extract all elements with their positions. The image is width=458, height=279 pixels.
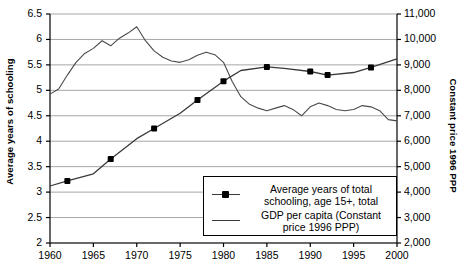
legend-label-gdp: GDP per capita (Constant price 1996 PPP) [248, 209, 398, 234]
y-axis-right-tick-label: 7,000 [404, 109, 452, 121]
y-axis-left-tick-label: 6 [2, 32, 42, 44]
y-axis-left-tick-label: 3 [2, 185, 42, 197]
legend-label-schooling-line1: Average years of total [248, 183, 394, 196]
data-point-marker [368, 64, 374, 70]
y-axis-left-tick-label: 2 [2, 236, 42, 248]
data-point-marker [194, 97, 200, 103]
chart-figure: Average years of schooling Constant pric… [0, 0, 458, 279]
data-point-marker [64, 178, 70, 184]
x-axis-tick-label: 1960 [28, 249, 72, 261]
data-point-marker [325, 72, 331, 78]
y-axis-left-tick-label: 3.5 [2, 160, 42, 172]
y-axis-left-tick-label: 5 [2, 83, 42, 95]
data-point-marker [307, 69, 313, 75]
x-axis-tick-label: 1975 [158, 249, 202, 261]
legend-label-schooling-line2: schooling, age 15+, total [248, 195, 394, 208]
x-axis-tick-label: 1985 [245, 249, 289, 261]
y-axis-left-tick-label: 4 [2, 134, 42, 146]
x-axis-tick-label: 1965 [71, 249, 115, 261]
y-axis-right-tick-label: 8,000 [404, 83, 452, 95]
y-axis-left-tick-label: 4.5 [2, 109, 42, 121]
legend-label-gdp-line1: GDP per capita (Constant [248, 209, 394, 222]
y-axis-left-tick-label: 2.5 [2, 211, 42, 223]
legend-label-schooling: Average years of total schooling, age 15… [248, 183, 398, 208]
data-point-marker [108, 156, 114, 162]
plot-canvas [0, 0, 458, 279]
x-axis-tick-label: 2000 [375, 249, 419, 261]
x-axis-tick-label: 1990 [288, 249, 332, 261]
y-axis-left-tick-label: 5.5 [2, 58, 42, 70]
x-axis-tick-label: 1980 [202, 249, 246, 261]
legend-key-line-with-marker [204, 187, 248, 203]
x-axis-tick-label: 1995 [332, 249, 376, 261]
y-axis-left-tick-label: 6.5 [2, 7, 42, 19]
data-point-marker [264, 64, 270, 70]
x-axis-tick-label: 1970 [115, 249, 159, 261]
data-point-marker [221, 78, 227, 84]
y-axis-right-tick-label: 9,000 [404, 58, 452, 70]
y-axis-right-tick-label: 4,000 [404, 185, 452, 197]
chart-legend: Average years of total schooling, age 15… [203, 176, 397, 236]
y-axis-right-tick-label: 10,000 [404, 32, 452, 44]
data-point-marker [151, 126, 157, 132]
y-axis-right-tick-label: 6,000 [404, 134, 452, 146]
y-axis-right-tick-label: 5,000 [404, 160, 452, 172]
y-axis-right-tick-label: 3,000 [404, 211, 452, 223]
legend-entry-gdp: GDP per capita (Constant price 1996 PPP) [204, 208, 398, 234]
legend-key-line [204, 213, 248, 229]
legend-label-gdp-line2: price 1996 PPP) [248, 221, 394, 234]
y-axis-right-tick-label: 11,000 [404, 7, 452, 19]
legend-entry-schooling: Average years of total schooling, age 15… [204, 182, 398, 208]
y-axis-right-tick-label: 2,000 [404, 236, 452, 248]
